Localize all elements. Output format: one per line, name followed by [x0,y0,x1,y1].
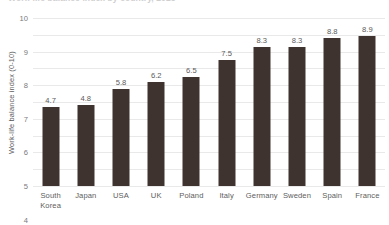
plot-area: 109876543210 4.74.85.86.26.57.58.38.38.8… [33,18,385,186]
bar-slot: 8.3 [244,18,279,186]
x-axis-tick-label: Spain [315,191,350,201]
bar-value-label: 4.7 [45,96,56,105]
bar-value-label: 8.8 [327,27,338,36]
bar[interactable] [42,107,59,186]
bar[interactable] [77,105,94,186]
x-axis-tick-label: USA [103,191,138,201]
bar[interactable] [253,47,270,186]
y-axis-tick-label: 9 [24,47,28,56]
x-axis-tick-label: Italy [209,191,244,201]
y-axis-tick-label: 10 [20,14,28,23]
bar-value-label: 7.5 [221,49,232,58]
bar-slot: 4.7 [33,18,68,186]
y-axis-title: Work-life balance index (0-10) [7,23,16,183]
x-axis-tick-label: Sweden [279,191,314,201]
bar-slot: 6.5 [174,18,209,186]
y-axis-tick-label: 5 [24,182,28,191]
bar-value-label: 8.9 [362,25,373,34]
bar[interactable] [324,38,341,186]
y-axis-tick-label: 8 [24,81,28,90]
bar-slot: 8.9 [350,18,385,186]
chart-title-text: Work-life balance index by country, 2023 [8,0,176,3]
bar-series: 4.74.85.86.26.57.58.38.38.88.9 [33,18,385,186]
bar-value-label: 8.3 [257,36,268,45]
bar-slot: 5.8 [103,18,138,186]
x-axis-tick-label: Germany [244,191,279,201]
y-axis-tick-label: 6 [24,148,28,157]
bar-slot: 6.2 [139,18,174,186]
bar[interactable] [148,82,165,186]
bar-value-label: 4.8 [81,94,92,103]
bar[interactable] [288,47,305,186]
bar-slot: 8.8 [315,18,350,186]
x-axis-tick-label: Japan [68,191,103,201]
bar-slot: 8.3 [279,18,314,186]
bar-slot: 4.8 [68,18,103,186]
x-axis-tick-label: Poland [174,191,209,201]
bar-value-label: 5.8 [116,78,127,87]
bar[interactable] [359,36,376,186]
x-axis-tick-label: SouthKorea [33,191,68,210]
bar-value-label: 8.3 [292,36,303,45]
bar-slot: 7.5 [209,18,244,186]
bar-value-label: 6.5 [186,66,197,75]
y-axis-tick-label: 4 [24,215,28,224]
chart-title: Work-life balance index by country, 2023 [8,0,383,3]
bar[interactable] [183,77,200,186]
x-axis-tick-label: France [350,191,385,201]
gridline: 0 [33,186,385,187]
y-axis-tick-label: 7 [24,114,28,123]
bar[interactable] [218,60,235,186]
bar-chart: Work-life balance index by country, 2023… [0,0,389,225]
x-axis-tick-label: UK [139,191,174,201]
bar[interactable] [112,89,129,186]
bar-value-label: 6.2 [151,71,162,80]
